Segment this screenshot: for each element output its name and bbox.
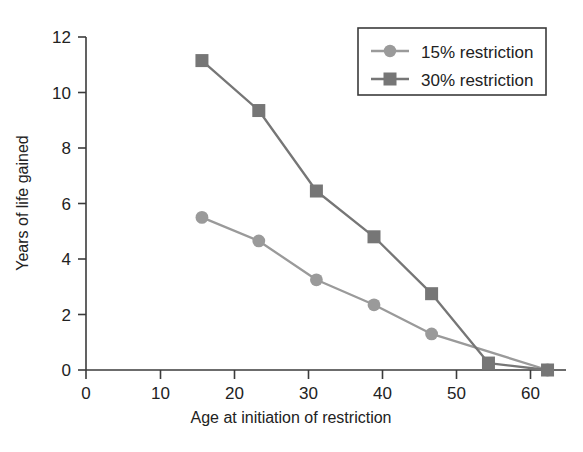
data-point-square bbox=[368, 230, 381, 243]
data-point-square bbox=[252, 104, 265, 117]
legend-square-marker-icon bbox=[384, 73, 397, 86]
x-tick-label-20: 20 bbox=[225, 384, 244, 403]
y-axis-title: Years of life gained bbox=[14, 135, 31, 271]
data-point-circle bbox=[425, 328, 438, 341]
x-tick-label-50: 50 bbox=[447, 384, 466, 403]
x-axis-title: Age at initiation of restriction bbox=[191, 409, 392, 426]
data-point-circle bbox=[252, 235, 265, 248]
y-tick-label-4: 4 bbox=[62, 250, 71, 269]
x-tick-label-0: 0 bbox=[81, 384, 90, 403]
y-tick-label-8: 8 bbox=[62, 139, 71, 158]
data-point-square bbox=[482, 357, 495, 370]
data-point-square bbox=[310, 185, 323, 198]
y-tick-label-0: 0 bbox=[62, 361, 71, 380]
data-point-circle bbox=[368, 298, 381, 311]
x-tick-label-60: 60 bbox=[521, 384, 540, 403]
data-point-circle bbox=[310, 273, 323, 286]
data-point-square bbox=[541, 364, 554, 377]
data-point-square bbox=[195, 54, 208, 67]
y-tick-label-6: 6 bbox=[62, 195, 71, 214]
y-tick-label-2: 2 bbox=[62, 306, 71, 325]
y-tick-label-12: 12 bbox=[52, 28, 71, 47]
legend-label-30: 30% restriction bbox=[421, 71, 533, 90]
chart-legend: 15% restriction 30% restriction bbox=[358, 28, 546, 95]
legend-circle-marker-icon bbox=[384, 45, 396, 57]
x-tick-label-30: 30 bbox=[299, 384, 318, 403]
x-tick-label-10: 10 bbox=[151, 384, 170, 403]
data-point-circle bbox=[196, 211, 209, 224]
legend-label-15: 15% restriction bbox=[421, 43, 533, 62]
x-tick-label-40: 40 bbox=[373, 384, 392, 403]
data-point-square bbox=[425, 287, 438, 300]
y-tick-label-10: 10 bbox=[52, 84, 71, 103]
chart-svg: 12 10 8 6 4 2 0 0 10 20 30 40 50 60 Age … bbox=[0, 0, 583, 452]
